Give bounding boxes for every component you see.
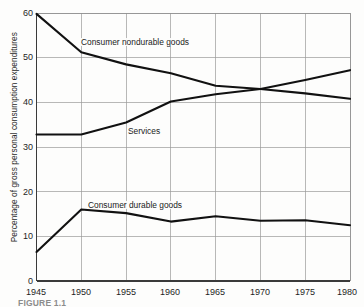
- series-label-consumer-durable-goods: Consumer durable goods: [87, 201, 183, 209]
- series-label-services: Services: [127, 127, 161, 135]
- series-line-consumer-nondurable-goods: [37, 14, 351, 99]
- series-label-consumer-nondurable-goods: Consumer nondurable goods: [80, 38, 190, 46]
- figure-caption: FIGURE 1.1: [18, 298, 66, 307]
- figure-container: Percentage of gross personal consumption…: [0, 0, 364, 307]
- series-lines: [37, 14, 351, 252]
- series-line-consumer-durable-goods: [37, 210, 351, 252]
